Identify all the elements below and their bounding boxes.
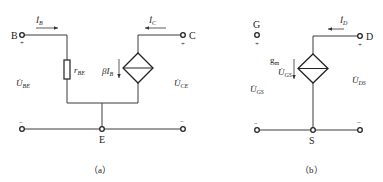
label-g: G bbox=[253, 19, 260, 30]
circuit-b: G D S + + − − İD gm U̇GS U̇GS U̇DS （b） bbox=[250, 15, 373, 175]
terminal-d bbox=[358, 34, 363, 39]
terminal-e bbox=[100, 127, 105, 132]
label-ugs: U̇GS bbox=[250, 84, 264, 95]
plus-c: + bbox=[181, 40, 185, 48]
label-b: B bbox=[11, 30, 18, 41]
dependent-current-source-icon bbox=[123, 53, 153, 83]
minus-g: − bbox=[254, 120, 258, 128]
label-e: E bbox=[99, 134, 105, 145]
label-uce: U̇CE bbox=[174, 78, 189, 89]
label-c: C bbox=[189, 30, 196, 41]
minus-c: − bbox=[180, 118, 184, 126]
label-rbe: rBE bbox=[74, 65, 85, 76]
resistor-rbe bbox=[64, 60, 70, 79]
plus-b: + bbox=[20, 39, 24, 47]
dependent-current-source-icon bbox=[298, 54, 328, 83]
terminal-g-minus bbox=[255, 128, 260, 133]
label-beta-ib: βIB bbox=[101, 66, 113, 77]
terminal-g bbox=[255, 33, 260, 38]
label-ib: İB bbox=[35, 15, 43, 26]
label-ic: İC bbox=[148, 15, 157, 26]
label-s: S bbox=[309, 135, 315, 146]
terminal-s bbox=[311, 128, 316, 133]
caption-a: （a） bbox=[89, 165, 111, 175]
circuit-diagram: B C E + + − − İB İC rBE βIB U̇BE U̇CE （a… bbox=[0, 0, 383, 182]
circuit-a: B C E + + − − İB İC rBE βIB U̇BE U̇CE （a… bbox=[11, 15, 196, 175]
label-ube: U̇BE bbox=[16, 78, 30, 89]
plus-g: + bbox=[255, 40, 259, 48]
plus-d: + bbox=[358, 41, 362, 49]
terminal-c bbox=[181, 33, 186, 38]
label-uds: U̇DS bbox=[352, 75, 366, 86]
terminal-b bbox=[20, 33, 25, 38]
label-source-ugs: U̇GS bbox=[278, 67, 292, 78]
minus-b: − bbox=[19, 119, 23, 127]
caption-b: （b） bbox=[300, 165, 323, 175]
minus-d: − bbox=[357, 119, 361, 127]
label-id: İD bbox=[339, 15, 348, 26]
terminal-c-minus bbox=[181, 127, 186, 132]
label-gm: gm bbox=[270, 55, 280, 66]
terminal-b-minus bbox=[20, 127, 25, 132]
label-d: D bbox=[366, 31, 373, 42]
terminal-d-minus bbox=[358, 128, 363, 133]
